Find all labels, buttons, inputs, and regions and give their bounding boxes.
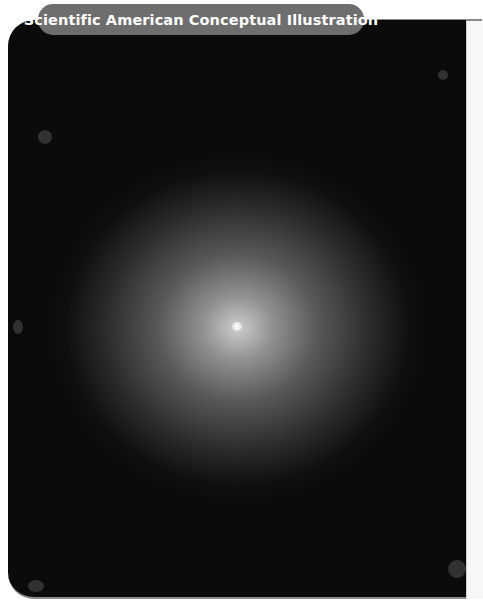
illustration-panel [8,20,466,599]
title-badge: Scientific American Conceptual Illustrat… [38,4,364,35]
right-margin-strip [466,21,483,599]
bright-core [232,322,242,331]
title-badge-label: Scientific American Conceptual Illustrat… [24,12,378,28]
diffuse-glow [8,20,466,597]
